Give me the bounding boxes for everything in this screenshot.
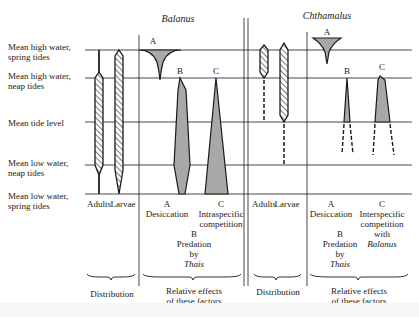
caption-letter: A [146,199,188,209]
chthamalus-effects-bracket [310,274,408,280]
caption-text: by [323,249,358,259]
group-label-line1: Relative effects [331,286,387,296]
chthamalus-larvae-label: Larvae [275,199,300,209]
chthamalus-adults-bar [260,45,268,122]
tide-label-line2: spring tides [8,201,68,211]
caption-letter: A [310,199,352,209]
tide-label-line1: Mean low water, [8,158,68,168]
caption-text: with [360,229,405,239]
caption-text: Thais [323,259,358,269]
balanus-factor-a-letter: A [150,36,157,46]
tide-label-mlw-neap: Mean low water, neap tides [8,158,68,178]
balanus-factor-a-caption: A Desiccation [146,199,188,219]
chthamalus-distribution-bracket [254,274,301,280]
balanus-distribution-group-label: Distribution [90,289,134,299]
balanus-larvae-bar [115,50,123,194]
caption-text: Desiccation [310,209,352,219]
caption-letter: C [199,199,244,209]
caption-text: Interspecific [360,209,405,219]
page-margin [0,303,419,317]
tide-label-line1: Mean high water, [8,42,71,52]
caption-text: competition [199,219,244,229]
tide-label-line2: neap tides [8,168,68,178]
balanus-factor-b-shape [174,78,190,194]
tide-label-line2: neap tides [8,81,71,91]
caption-text: Predation [323,239,358,249]
caption-text: Intraspecific [199,209,244,219]
tide-label-mhw-neap: Mean high water, neap tides [8,71,71,91]
balanus-adults-bar [95,50,103,194]
tide-label-mean-tide: Mean tide level [8,118,64,128]
balanus-larvae-label: Larvae [111,199,136,209]
tide-label-mlw-spring: Mean low water, spring tides [8,191,68,211]
caption-text: Thais [177,259,212,269]
balanus-distribution-bracket [87,274,135,280]
balanus-effects-bracket [143,274,241,280]
brackets [87,274,408,280]
caption-text: Balanus [360,239,405,249]
chthamalus-factor-b-shape [342,78,353,154]
chthamalus-distribution-group-label: Distribution [256,287,300,297]
balanus-factor-c-letter: C [213,66,219,76]
balanus-factor-c-shape [205,78,228,194]
zonation-diagram: Balanus Chthamalus Mean high water, spri… [0,0,419,317]
chthamalus-factor-c-caption: C Interspecific competition with Balanus [360,199,405,249]
balanus-factor-a-shape [139,50,181,80]
chthamalus-adults-label: Adults [252,199,276,209]
tide-label-line1: Mean low water, [8,191,68,201]
chthamalus-larvae-bar [280,43,288,165]
chthamalus-factor-b-letter: B [344,66,350,76]
caption-text: by [177,249,212,259]
balanus-adults-label: Adults [87,199,111,209]
chthamalus-factor-a-shape [313,38,341,64]
balanus-factor-b-caption: B Predation by Thais [177,229,212,269]
tide-label-line1: Mean tide level [8,118,64,128]
tide-lines [85,50,412,194]
title-chthamalus: Chthamalus [303,11,351,21]
chthamalus-factor-c-shape [373,76,394,155]
caption-text: Predation [177,239,212,249]
caption-letter: B [323,229,358,239]
caption-letter: B [177,229,212,239]
chthamalus-factor-a-caption: A Desiccation [310,199,352,219]
group-label-line1: Relative effects [166,286,222,296]
title-balanus: Balanus [162,14,195,24]
chthamalus-factor-c-letter: C [379,62,385,72]
chthamalus-factor-a-letter: A [324,27,331,37]
caption-text: competition [360,219,405,229]
balanus-factor-c-caption: C Intraspecific competition [199,199,244,229]
balanus-factor-b-letter: B [177,66,183,76]
tide-label-mhw-spring: Mean high water, spring tides [8,42,71,62]
tide-label-line2: spring tides [8,52,71,62]
chthamalus-factor-b-caption: B Predation by Thais [323,229,358,269]
caption-letter: C [360,199,405,209]
caption-text: Desiccation [146,209,188,219]
tide-label-line1: Mean high water, [8,71,71,81]
